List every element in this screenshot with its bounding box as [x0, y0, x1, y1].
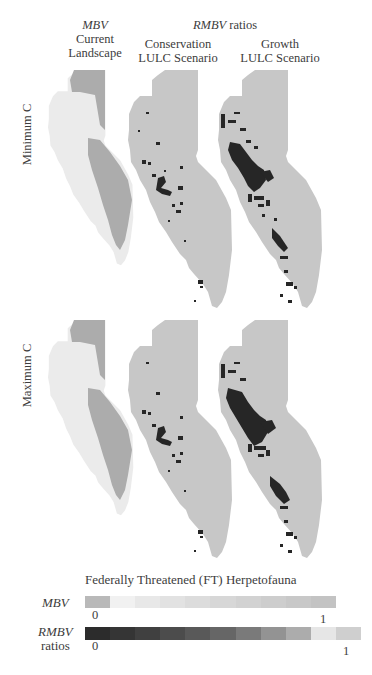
legend-rmbv-label-ratios: ratios — [41, 638, 70, 654]
rmbv-colorbar-segment — [261, 627, 286, 640]
rmbv-colorbar-segment — [311, 627, 336, 640]
legend-title: Federally Threatened (FT) Herpetofauna — [85, 572, 297, 588]
row-label-maximum-c: Maximum C — [20, 340, 35, 412]
rmbv-colorbar-segment — [236, 627, 261, 640]
rmbv-group-italic: RMBV — [193, 18, 226, 32]
col1-header-mbv: MBV — [60, 18, 130, 32]
mbv-colorbar-segment — [160, 596, 185, 608]
rmbv-colorbar-segment — [185, 627, 210, 640]
mbv-colorbar-segment — [311, 596, 336, 608]
col2-header-lulc: LULC Scenario — [128, 51, 228, 65]
map-rmbv-growth-max — [218, 320, 326, 565]
row-label-minimum-c: Minimum C — [20, 100, 35, 170]
mbv-colorbar-segment — [110, 596, 135, 608]
mbv-colorbar-segment — [135, 596, 160, 608]
legend-rmbv-max: 1 — [343, 644, 349, 659]
col1-header-current: Current — [60, 32, 130, 46]
mbv-colorbar-segment — [210, 596, 235, 608]
rmbv-colorbar-segment — [110, 627, 135, 640]
col3-header-lulc: LULC Scenario — [230, 51, 330, 65]
mbv-colorbar-segment — [185, 596, 210, 608]
rmbv-colorbar-segment — [210, 627, 235, 640]
mbv-colorbar-segment — [236, 596, 261, 608]
legend-mbv-min: 0 — [92, 608, 98, 623]
rmbv-group-rest: ratios — [226, 18, 257, 32]
legend-mbv-max: 1 — [320, 612, 326, 627]
rmbv-colorbar-segment — [160, 627, 185, 640]
rmbv-group-header: RMBV ratios — [170, 18, 280, 32]
mbv-colorbar-segment — [85, 596, 110, 608]
mbv-colorbar-segment — [286, 596, 311, 608]
col3-header-growth: Growth — [230, 37, 330, 51]
map-rmbv-growth-min — [218, 70, 326, 315]
rmbv-colorbar-segment — [135, 627, 160, 640]
legend-mbv-label: MBV — [42, 595, 69, 611]
legend-rmbv-colorbar — [85, 627, 361, 640]
rmbv-colorbar-segment — [286, 627, 311, 640]
col1-header-landscape: Landscape — [54, 46, 136, 60]
legend-rmbv-min: 0 — [92, 639, 98, 654]
mbv-colorbar-segment — [261, 596, 286, 608]
col2-header-conservation: Conservation — [128, 37, 228, 51]
legend-mbv-colorbar — [85, 596, 336, 608]
rmbv-colorbar-segment — [336, 627, 361, 640]
